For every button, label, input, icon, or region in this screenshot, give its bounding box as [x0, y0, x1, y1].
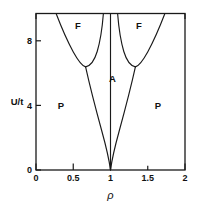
x-tick-label-0: 0 [33, 173, 38, 183]
y-tick-label-8: 8 [27, 36, 32, 46]
phase-label-P-left: P [58, 100, 65, 111]
phase-label-F-left: F [75, 20, 81, 31]
y-axis-title: U/t [11, 96, 25, 107]
x-tick-label-1: 1 [108, 173, 113, 183]
phase-diagram-figure: 0 0.5 1 1.5 2 0 4 8 U/t ρ F F P P [0, 0, 197, 208]
phase-diagram-svg: 0 0.5 1 1.5 2 0 4 8 U/t ρ F F P P [0, 0, 197, 208]
x-tick-label-1.5: 1.5 [141, 173, 154, 183]
phase-label-F-right: F [136, 20, 142, 31]
y-tick-label-4: 4 [27, 101, 32, 111]
phase-label-P-right: P [155, 100, 162, 111]
x-axis-title: ρ [106, 189, 113, 201]
phase-label-A: A [109, 73, 116, 84]
x-tick-label-0.5: 0.5 [67, 173, 80, 183]
x-tick-label-2: 2 [182, 173, 187, 183]
y-tick-label-0: 0 [27, 165, 32, 175]
